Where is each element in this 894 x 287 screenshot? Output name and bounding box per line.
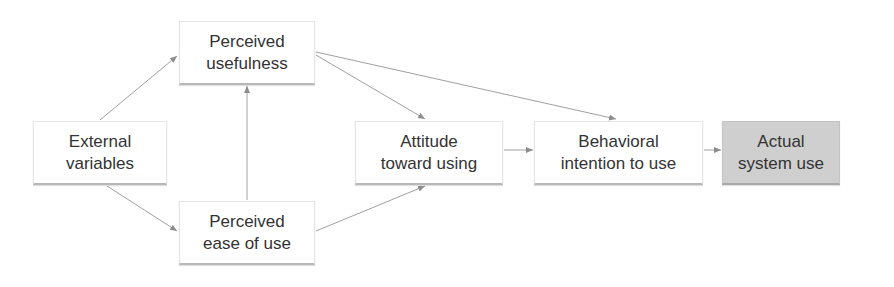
node-label-line2: toward using [381, 153, 477, 175]
node-attitude-toward-using: Attitudetoward using [355, 121, 503, 185]
node-actual-system-use: Actualsystem use [722, 121, 840, 185]
node-label-line2: usefulness [206, 53, 287, 75]
node-label-line1: Actual [738, 131, 824, 153]
node-label-line2: variables [66, 153, 134, 175]
edge-pu-bi [316, 52, 616, 119]
node-perceived-ease-of-use: Perceivedease of use [179, 201, 315, 265]
node-perceived-usefulness: Perceivedusefulness [179, 21, 315, 85]
edge-ext-peou [107, 186, 177, 231]
edge-ext-pu [100, 56, 177, 120]
node-label-line1: Behavioral [561, 131, 676, 153]
node-label-line2: system use [738, 153, 824, 175]
node-label-line1: Attitude [381, 131, 477, 153]
node-label-line1: Perceived [203, 211, 291, 233]
edge-peou-att [316, 186, 425, 231]
node-label-line2: intention to use [561, 153, 676, 175]
node-label-line2: ease of use [203, 233, 291, 255]
node-behavioral-intention: Behavioralintention to use [534, 121, 703, 185]
node-label-line1: Perceived [206, 31, 287, 53]
node-external-variables: Externalvariables [33, 121, 167, 185]
node-label-line1: External [66, 131, 134, 153]
